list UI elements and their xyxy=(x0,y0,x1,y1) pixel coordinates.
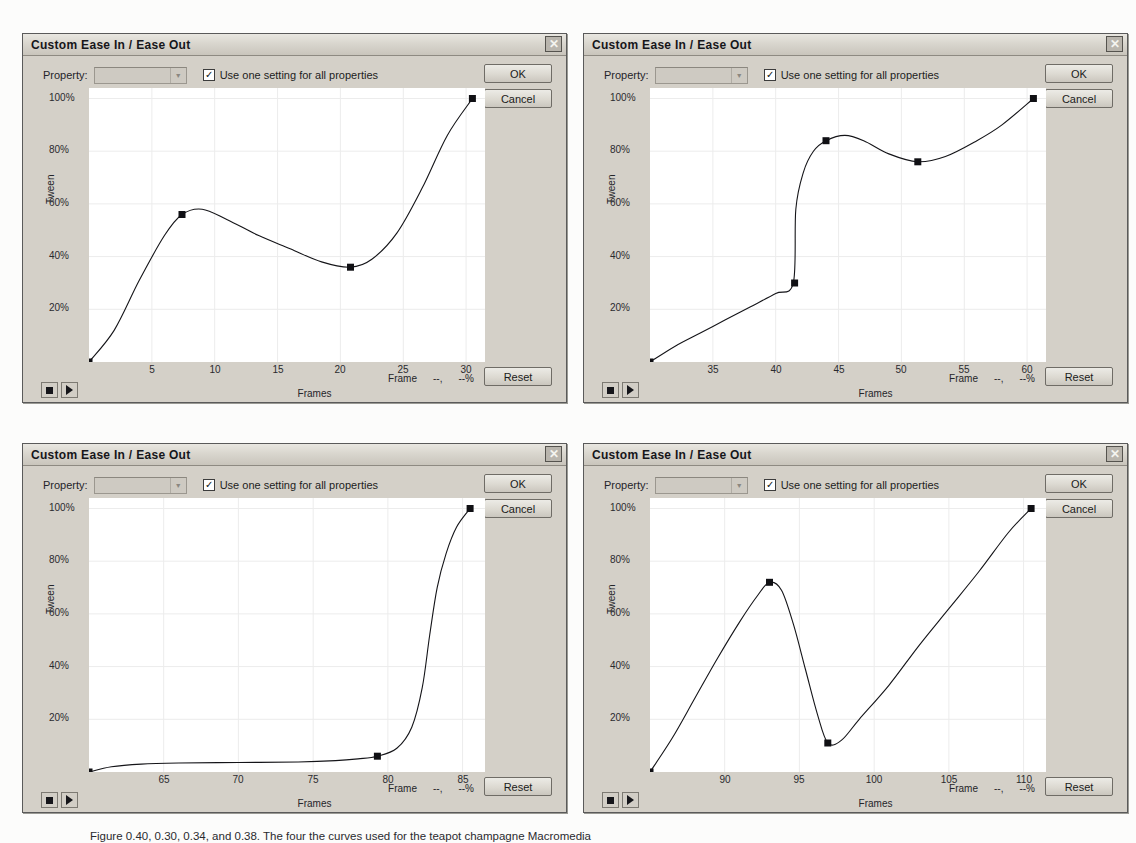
playback-controls[interactable] xyxy=(41,792,81,808)
x-tick-label: 35 xyxy=(707,364,718,375)
property-select[interactable]: ▼ xyxy=(655,477,748,494)
y-tick-label: 60% xyxy=(49,607,69,618)
dialog-body: Property: ▼ ✓ Use one setting for all pr… xyxy=(23,56,566,402)
x-tick-label: 15 xyxy=(272,364,283,375)
dialog-titlebar[interactable]: Custom Ease In / Ease Out ✕ xyxy=(23,444,566,466)
play-icon xyxy=(66,795,73,805)
ease-curve-path xyxy=(650,509,1031,772)
plot-gridlines xyxy=(89,88,485,362)
x-tick-label: 100 xyxy=(866,774,883,785)
dialog-title: Custom Ease In / Ease Out xyxy=(31,38,191,52)
frame-readout-value: --, xyxy=(433,783,442,794)
dialog-title: Custom Ease In / Ease Out xyxy=(592,448,752,462)
chevron-down-icon: ▼ xyxy=(731,68,747,83)
ease-curve-plot[interactable] xyxy=(89,88,485,362)
checkbox-label: Use one setting for all properties xyxy=(220,479,378,491)
frame-readout-value: --, xyxy=(994,373,1003,384)
custom-ease-dialog[interactable]: Custom Ease In / Ease Out ✕ Property: ▼ … xyxy=(583,33,1128,403)
property-label: Property: xyxy=(604,479,649,491)
property-row: Property: ▼ ✓ Use one setting for all pr… xyxy=(43,66,378,84)
stop-button[interactable] xyxy=(41,382,58,398)
y-tick-label: 80% xyxy=(49,554,69,565)
play-button[interactable] xyxy=(622,382,639,398)
ok-button[interactable]: OK xyxy=(484,474,552,493)
stop-button[interactable] xyxy=(41,792,58,808)
dialog-body: Property: ▼ ✓ Use one setting for all pr… xyxy=(584,466,1127,812)
plot-gridlines xyxy=(650,498,1046,772)
x-tick-label: 10 xyxy=(209,364,220,375)
reset-button[interactable]: Reset xyxy=(1045,367,1113,386)
close-icon[interactable]: ✕ xyxy=(545,446,562,462)
y-tick-label: 20% xyxy=(610,712,630,723)
ease-curve-plot[interactable] xyxy=(650,88,1046,362)
close-icon[interactable]: ✕ xyxy=(1106,446,1123,462)
y-tick-label: 100% xyxy=(49,92,75,103)
y-tick-label: 40% xyxy=(610,660,630,671)
y-tick-label: 100% xyxy=(49,502,75,513)
use-one-setting-checkbox[interactable]: ✓ Use one setting for all properties xyxy=(203,479,378,491)
frame-readout: Frame--,--% xyxy=(949,783,1035,794)
percent-readout-value: --% xyxy=(1019,783,1035,794)
x-tick-label: 5 xyxy=(149,364,155,375)
cancel-button[interactable]: Cancel xyxy=(484,499,552,518)
x-axis-label: Frames xyxy=(584,798,1127,809)
ok-button[interactable]: OK xyxy=(1045,474,1113,493)
y-tick-label: 40% xyxy=(49,250,69,261)
y-tick-label: 20% xyxy=(49,302,69,313)
play-button[interactable] xyxy=(622,792,639,808)
use-one-setting-checkbox[interactable]: ✓ Use one setting for all properties xyxy=(203,69,378,81)
property-select[interactable]: ▼ xyxy=(94,67,187,84)
property-select[interactable]: ▼ xyxy=(94,477,187,494)
checkbox-box[interactable]: ✓ xyxy=(203,69,215,81)
dialog-titlebar[interactable]: Custom Ease In / Ease Out ✕ xyxy=(584,444,1127,466)
dialog-titlebar[interactable]: Custom Ease In / Ease Out ✕ xyxy=(23,34,566,56)
close-icon[interactable]: ✕ xyxy=(545,36,562,52)
stop-button[interactable] xyxy=(602,382,619,398)
y-tick-label: 100% xyxy=(610,92,636,103)
checkbox-box[interactable]: ✓ xyxy=(764,479,776,491)
cancel-button[interactable]: Cancel xyxy=(484,89,552,108)
cancel-button[interactable]: Cancel xyxy=(1045,499,1113,518)
property-label: Property: xyxy=(604,69,649,81)
playback-controls[interactable] xyxy=(602,792,642,808)
reset-button[interactable]: Reset xyxy=(1045,777,1113,796)
checkbox-label: Use one setting for all properties xyxy=(220,69,378,81)
property-label: Property: xyxy=(43,69,88,81)
plot-gridlines xyxy=(89,498,485,772)
stop-icon xyxy=(46,797,53,804)
property-row: Property: ▼ ✓ Use one setting for all pr… xyxy=(604,476,939,494)
property-label: Property: xyxy=(43,479,88,491)
ease-curve-plot[interactable] xyxy=(89,498,485,772)
play-icon xyxy=(627,385,634,395)
dialog-titlebar[interactable]: Custom Ease In / Ease Out ✕ xyxy=(584,34,1127,56)
ok-button[interactable]: OK xyxy=(1045,64,1113,83)
use-one-setting-checkbox[interactable]: ✓ Use one setting for all properties xyxy=(764,479,939,491)
y-tick-label: 100% xyxy=(610,502,636,513)
plot-gridlines xyxy=(650,88,1046,362)
use-one-setting-checkbox[interactable]: ✓ Use one setting for all properties xyxy=(764,69,939,81)
custom-ease-dialog[interactable]: Custom Ease In / Ease Out ✕ Property: ▼ … xyxy=(583,443,1128,813)
close-icon[interactable]: ✕ xyxy=(1106,36,1123,52)
frame-readout: Frame--,--% xyxy=(388,783,474,794)
x-axis-label: Frames xyxy=(23,798,566,809)
cancel-button[interactable]: Cancel xyxy=(1045,89,1113,108)
custom-ease-dialog[interactable]: Custom Ease In / Ease Out ✕ Property: ▼ … xyxy=(22,33,567,403)
ok-button[interactable]: OK xyxy=(484,64,552,83)
y-tick-label: 40% xyxy=(49,660,69,671)
x-tick-label: 75 xyxy=(307,774,318,785)
property-select[interactable]: ▼ xyxy=(655,67,748,84)
reset-button[interactable]: Reset xyxy=(484,777,552,796)
playback-controls[interactable] xyxy=(41,382,81,398)
play-button[interactable] xyxy=(61,792,78,808)
stop-icon xyxy=(46,387,53,394)
custom-ease-dialog[interactable]: Custom Ease In / Ease Out ✕ Property: ▼ … xyxy=(22,443,567,813)
play-button[interactable] xyxy=(61,382,78,398)
stop-button[interactable] xyxy=(602,792,619,808)
ease-curve-plot[interactable] xyxy=(650,498,1046,772)
playback-controls[interactable] xyxy=(602,382,642,398)
reset-button[interactable]: Reset xyxy=(484,367,552,386)
checkbox-box[interactable]: ✓ xyxy=(203,479,215,491)
x-axis-label: Frames xyxy=(23,388,566,399)
x-tick-label: 95 xyxy=(793,774,804,785)
checkbox-box[interactable]: ✓ xyxy=(764,69,776,81)
